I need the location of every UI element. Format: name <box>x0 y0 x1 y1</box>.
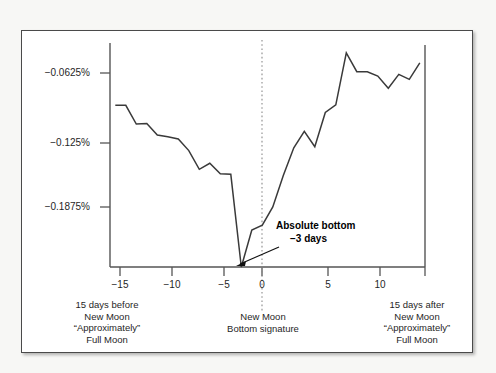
x-tick-label-5: 5 <box>313 279 343 290</box>
x-tick-label-6: 10 <box>365 279 395 290</box>
y-tick-label-1: −0.0625% <box>28 67 90 78</box>
caption-left: 15 days before New Moon “Approximately” … <box>32 299 182 345</box>
y-axis-ticks <box>100 73 110 207</box>
x-axis-ticks <box>120 267 425 276</box>
caption-right: 15 days after New Moon “Approximately” F… <box>355 299 479 345</box>
annotation-line-2: −3 days <box>276 232 355 245</box>
x-tick-label-3: −5 <box>209 279 239 290</box>
y-tick-label-2: −0.125% <box>28 137 90 148</box>
figure-container: −0.0625% −0.125% −0.1875% −15 −10 −5 0 5… <box>0 0 496 373</box>
figure-caption-cropped <box>28 361 468 371</box>
y-tick-label-3: −0.1875% <box>28 201 90 212</box>
annotation-line-1: Absolute bottom <box>276 220 355 231</box>
caption-center: New Moon Bottom signature <box>196 311 330 334</box>
annotation-arrow <box>236 247 279 266</box>
x-tick-label-4: 0 <box>247 279 277 290</box>
x-tick-label-1: −15 <box>105 279 135 290</box>
absolute-bottom-annotation: Absolute bottom −3 days <box>276 219 355 245</box>
x-tick-label-2: −10 <box>157 279 187 290</box>
data-series-line <box>115 53 420 267</box>
